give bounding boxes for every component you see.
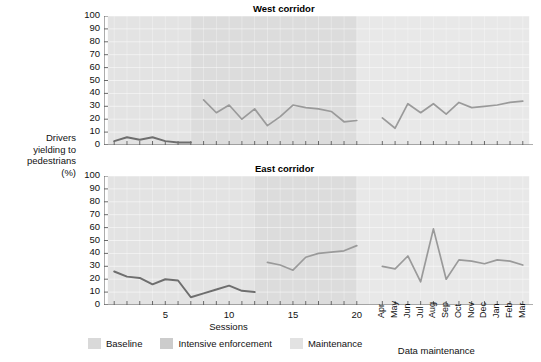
x-tick-label-month: Feb: [504, 302, 514, 318]
y-tick-label: 100: [84, 170, 100, 180]
y-tick-label: 50: [89, 235, 100, 245]
panel-west-corridor: West corridor 1009080706050403020100: [0, 0, 541, 160]
x-tick-label-session: 15: [281, 309, 305, 320]
legend-label: Maintenance: [308, 338, 362, 349]
y-tick-label: 20: [89, 273, 100, 283]
panel-east-corridor: East corridor 1009080706050403020100 510…: [0, 160, 541, 335]
y-tick-label: 90: [89, 183, 100, 193]
legend-item: Maintenance: [290, 338, 362, 349]
y-tick-label: 40: [89, 247, 100, 257]
y-tick-label: 10: [89, 126, 100, 136]
y-tick-label: 20: [89, 113, 100, 123]
y-tick-label: 60: [89, 62, 100, 72]
plot-area-east: [104, 176, 533, 305]
y-tick-label: 30: [89, 100, 100, 110]
y-tick-label: 50: [89, 75, 100, 85]
x-tick-label-month: May: [389, 301, 399, 318]
y-tick-label: 60: [89, 222, 100, 232]
x-tick-label-month: Jan: [491, 303, 501, 318]
x-tick-label-month: Aug: [427, 302, 437, 318]
x-tick-label-month: Oct: [453, 304, 463, 318]
plot-svg-east: [104, 176, 533, 305]
y-tick-label: 70: [89, 49, 100, 59]
y-tick-label: 100: [84, 10, 100, 20]
y-tick-label: 0: [95, 299, 100, 309]
legend-label: Intensive enforcement: [178, 338, 271, 349]
figure-root: Drivers yielding to pedestrians (%) West…: [0, 0, 541, 362]
y-tick-label: 40: [89, 87, 100, 97]
legend-swatch: [290, 338, 303, 349]
x-axis-caption-data-maintenance: Data maintenance: [398, 345, 475, 356]
legend-item: Baseline: [88, 338, 142, 349]
legend-label: Baseline: [106, 338, 142, 349]
legend: BaselineIntensive enforcementMaintenance: [88, 338, 374, 349]
y-tick-label: 80: [89, 36, 100, 46]
y-tick-label: 30: [89, 260, 100, 270]
x-tick-label-month: Sep: [440, 302, 450, 318]
x-tick-label-session: 10: [217, 309, 241, 320]
x-tick-label-month: Nov: [466, 302, 476, 318]
y-axis-ticks-east: 1009080706050403020100: [76, 175, 100, 305]
panel-title-west: West corridor: [253, 3, 315, 14]
plot-area-west: [104, 16, 533, 145]
legend-swatch: [88, 338, 101, 349]
y-tick-label: 90: [89, 23, 100, 33]
plot-svg-west: [104, 16, 533, 145]
legend-item: Intensive enforcement: [160, 338, 271, 349]
x-tick-label-session: 20: [345, 309, 369, 320]
x-axis-caption-sessions: Sessions: [209, 321, 248, 332]
x-tick-label-month: Jul: [415, 306, 425, 318]
x-tick-label-month: Dec: [478, 302, 488, 318]
x-tick-label-month: Jun: [402, 303, 412, 318]
panel-title-east: East corridor: [255, 163, 314, 174]
y-tick-label: 10: [89, 286, 100, 296]
x-tick-label-month: Apr: [376, 304, 386, 318]
x-tick-label-month: Mar: [517, 303, 527, 319]
y-axis-ticks-west: 1009080706050403020100: [76, 15, 100, 145]
x-tick-label-session: 5: [153, 309, 177, 320]
y-tick-label: 0: [95, 139, 100, 149]
y-tick-label: 70: [89, 209, 100, 219]
y-tick-label: 80: [89, 196, 100, 206]
legend-swatch: [160, 338, 173, 349]
